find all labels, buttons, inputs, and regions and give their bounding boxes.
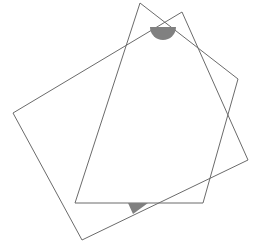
figure-canvas — [0, 0, 260, 245]
geometry-figure — [0, 0, 260, 245]
figure-background — [0, 0, 260, 245]
